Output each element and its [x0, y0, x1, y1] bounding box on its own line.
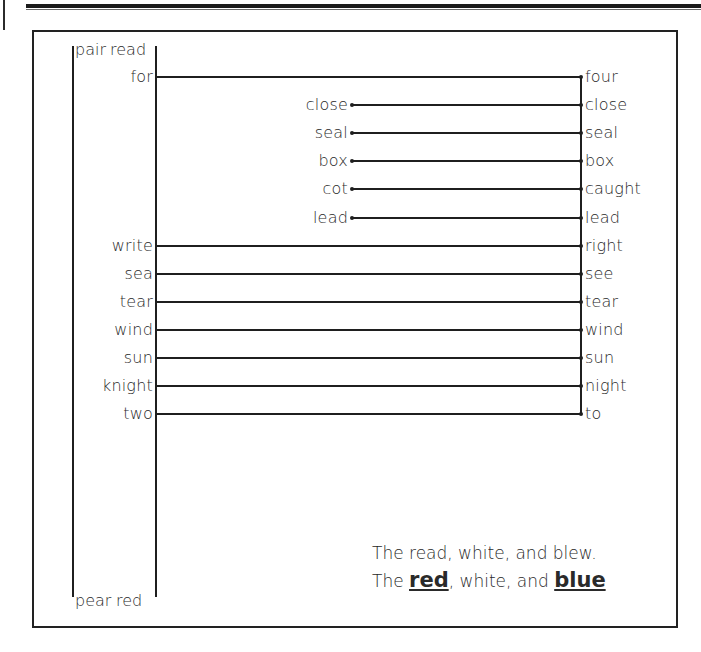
right-word-label: lead	[585, 210, 620, 226]
middle-set-label-top: read	[110, 42, 146, 58]
right-word-label: sun	[585, 350, 614, 366]
right-word-label: close	[585, 97, 627, 113]
right-line-tick	[579, 159, 583, 163]
left-word-label: tear	[34, 294, 153, 310]
page-top-rule	[26, 4, 701, 8]
right-word-label: to	[585, 406, 601, 422]
connector-endpoint-dot	[350, 103, 354, 107]
right-word-label: four	[585, 69, 618, 85]
caption-block: The read, white, and blew. The red, whit…	[372, 540, 662, 594]
caption-line-2-prefix: The	[372, 571, 409, 591]
middle-set-label-bottom: red	[116, 593, 142, 609]
left-set-label-bottom: pear	[75, 593, 111, 609]
right-line-tick	[579, 131, 583, 135]
figure-frame: pair read pear red forfourclosecloseseal…	[32, 30, 678, 628]
right-line-tick	[579, 75, 583, 79]
right-line-tick	[579, 187, 583, 191]
left-word-label: for	[34, 69, 153, 85]
right-word-label: see	[585, 266, 614, 282]
left-word-label: knight	[34, 378, 153, 394]
middle-word-label: cot	[34, 181, 348, 197]
right-word-label: seal	[585, 125, 618, 141]
right-line-tick	[579, 103, 583, 107]
connector-line	[351, 132, 582, 134]
page-left-margin-rule	[3, 0, 5, 30]
connector-endpoint-dot	[350, 159, 354, 163]
right-line-tick	[579, 216, 583, 220]
right-line-tick	[579, 412, 583, 416]
connector-endpoint-dot	[350, 187, 354, 191]
caption-line-2-middle: , white, and	[449, 571, 555, 591]
middle-word-label: box	[34, 153, 348, 169]
right-line-tick	[579, 356, 583, 360]
left-set-label-top: pair	[75, 42, 106, 58]
right-word-label: tear	[585, 294, 618, 310]
right-word-label: box	[585, 153, 615, 169]
right-word-label: right	[585, 238, 623, 254]
connector-line	[351, 188, 582, 190]
right-line-tick	[579, 272, 583, 276]
right-word-label: wind	[585, 322, 624, 338]
connector-line	[155, 245, 582, 247]
right-line-tick	[579, 300, 583, 304]
connector-line	[351, 217, 582, 219]
left-word-label: wind	[34, 322, 153, 338]
middle-word-label: close	[34, 97, 348, 113]
caption-line-1: The read, white, and blew.	[372, 540, 662, 566]
caption-emph-red: red	[409, 568, 449, 592]
connector-line	[155, 413, 582, 415]
right-line-tick	[579, 384, 583, 388]
connector-line	[155, 76, 582, 78]
page-top-rule-thin	[26, 9, 701, 10]
connector-line	[155, 357, 582, 359]
middle-word-label: seal	[34, 125, 348, 141]
left-word-label: sea	[34, 266, 153, 282]
connector-endpoint-dot	[350, 131, 354, 135]
right-line-tick	[579, 328, 583, 332]
connector-line	[351, 160, 582, 162]
right-word-label: night	[585, 378, 627, 394]
right-word-label: caught	[585, 181, 641, 197]
caption-emph-blue: blue	[554, 568, 605, 592]
connector-line	[155, 329, 582, 331]
connector-line	[155, 273, 582, 275]
connector-line	[155, 385, 582, 387]
middle-word-label: lead	[34, 210, 348, 226]
left-word-label: write	[34, 238, 153, 254]
connector-line	[351, 104, 582, 106]
connector-endpoint-dot	[350, 216, 354, 220]
left-word-label: two	[34, 406, 153, 422]
connector-line	[155, 301, 582, 303]
left-word-label: sun	[34, 350, 153, 366]
caption-line-2: The red, white, and blue	[372, 567, 662, 594]
right-line-tick	[579, 244, 583, 248]
